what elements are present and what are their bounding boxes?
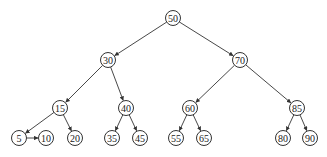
edge-arrow-85-to-90 (300, 115, 307, 131)
node-label: 5 (17, 133, 22, 144)
tree-node-90: 90 (303, 131, 318, 146)
node-label: 60 (185, 103, 195, 114)
edge-arrow-60-to-55 (179, 115, 186, 131)
edges-layer (25, 22, 306, 138)
node-label: 35 (107, 133, 117, 144)
node-label: 90 (305, 133, 315, 144)
edge-arrow-60-to-65 (193, 115, 200, 131)
tree-node-5: 5 (12, 131, 27, 146)
node-label: 45 (135, 133, 145, 144)
tree-node-65: 65 (197, 131, 212, 146)
tree-node-80: 80 (276, 131, 291, 146)
tree-node-45: 45 (133, 131, 148, 146)
tree-node-10: 10 (39, 131, 54, 146)
tree-diagram: 5030701540608551020354555658090 (0, 0, 327, 157)
edge-arrow-70-to-60 (196, 65, 235, 102)
node-label: 85 (292, 103, 302, 114)
nodes-layer: 5030701540608551020354555658090 (12, 11, 318, 146)
node-label: 30 (103, 55, 113, 66)
tree-node-30: 30 (101, 53, 116, 68)
edge-arrow-15-to-20 (63, 115, 71, 131)
edge-arrow-40-to-45 (129, 115, 136, 131)
node-label: 40 (121, 103, 131, 114)
edge-arrow-30-to-15 (66, 65, 103, 102)
tree-node-85: 85 (290, 101, 305, 116)
edge-arrow-30-to-40 (111, 67, 124, 100)
tree-node-35: 35 (105, 131, 120, 146)
node-label: 70 (235, 55, 245, 66)
tree-node-15: 15 (53, 101, 68, 116)
tree-node-55: 55 (169, 131, 184, 146)
node-label: 55 (171, 133, 181, 144)
tree-node-70: 70 (233, 53, 248, 68)
tree-node-60: 60 (183, 101, 198, 116)
node-label: 50 (168, 13, 178, 24)
node-label: 80 (278, 133, 288, 144)
node-label: 10 (41, 133, 51, 144)
edge-arrow-50-to-70 (179, 22, 233, 56)
edge-arrow-50-to-30 (115, 22, 167, 56)
tree-node-50: 50 (166, 11, 181, 26)
node-label: 65 (199, 133, 209, 144)
node-label: 15 (55, 103, 65, 114)
node-label: 20 (70, 133, 80, 144)
edge-arrow-40-to-35 (115, 115, 122, 131)
edge-arrow-15-to-5 (25, 112, 53, 133)
tree-node-40: 40 (119, 101, 134, 116)
tree-node-20: 20 (68, 131, 83, 146)
edge-arrow-85-to-80 (286, 115, 293, 131)
edge-arrow-70-to-85 (246, 65, 291, 103)
